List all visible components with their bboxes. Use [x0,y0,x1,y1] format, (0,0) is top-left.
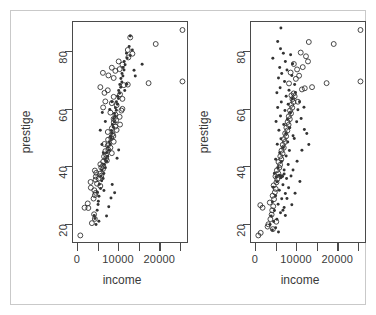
x-axis-title-right: income [189,273,367,287]
data-point [284,214,287,217]
data-point [126,57,129,60]
data-points-right [251,22,365,242]
data-point [133,69,136,72]
y-tick-label: 80 [57,51,69,64]
data-point [102,189,105,192]
data-point [286,141,289,144]
data-point [102,177,105,180]
data-point [281,183,284,186]
data-point [288,149,291,152]
data-point [282,52,285,55]
figure-container: prestige 20 40 60 80 0 10000 20000 i [10,10,366,305]
data-point [101,111,104,114]
data-point [106,73,111,78]
data-point [275,218,278,221]
data-point [98,183,101,186]
data-point [286,69,289,72]
data-point [93,214,96,217]
data-point [109,135,112,138]
data-point [277,129,280,132]
data-point [289,53,292,56]
data-point [102,172,105,175]
x-tick-label: 10000 [280,253,312,265]
data-point [124,63,127,66]
data-point [288,126,291,129]
data-point [277,203,280,206]
data-point [108,110,113,115]
data-point [117,149,120,152]
data-point [104,166,107,169]
data-point [114,115,117,118]
data-point [180,28,185,33]
data-point [280,160,283,163]
data-point [282,123,285,126]
data-point [116,59,121,64]
y-tick-label: 40 [57,166,69,179]
data-point [295,67,300,72]
data-point [275,91,278,94]
data-point [291,62,294,65]
x-tick-label: 0 [74,253,80,265]
data-point [116,103,119,106]
data-point [273,172,276,175]
data-point [298,100,301,103]
data-point [288,89,291,92]
data-point [277,77,280,80]
data-point [294,91,297,94]
x-tick-label: 10000 [102,253,134,265]
data-point [284,60,287,63]
data-point [304,54,309,59]
data-point [280,101,283,104]
data-point [95,223,98,226]
data-point [283,169,286,172]
data-point [272,220,275,223]
data-point [112,126,115,129]
data-point [134,75,137,78]
data-point [305,132,308,135]
data-point [105,130,110,135]
data-point [292,169,295,172]
x-axis-title-text: income [237,273,320,287]
data-point [310,85,315,90]
x-tick-label: 20000 [322,253,354,265]
data-point [120,81,123,84]
data-point [284,192,287,195]
data-point [283,206,286,209]
data-point [358,28,363,33]
data-point [277,166,280,169]
x-axis-left: 0 10000 20000 [72,243,188,252]
x-tick [180,243,181,251]
y-tick-label: 80 [235,51,247,64]
data-point [103,99,108,104]
y-axis-left: 20 40 60 80 [64,21,72,243]
data-point [275,175,278,178]
data-point [272,186,275,189]
data-point [180,79,185,84]
data-point [281,209,284,212]
data-point [277,231,280,234]
data-point [106,145,109,148]
x-tick [159,243,160,251]
data-point [112,117,115,120]
data-point [279,211,282,214]
data-point [122,66,125,69]
data-point [281,175,284,178]
data-point [110,197,113,200]
data-point [125,52,128,55]
data-point [141,63,144,66]
data-point [271,57,274,60]
data-point [303,128,306,131]
plot-area-left [72,21,188,243]
series-filled-dot [93,35,144,227]
y-tick-label: 20 [235,224,247,237]
data-point [99,187,102,190]
data-point [111,76,116,81]
data-point [287,186,290,189]
data-point [101,169,104,172]
data-point [105,160,108,163]
data-point [297,73,302,78]
data-point [294,192,297,195]
data-point [274,194,277,197]
data-point [103,163,106,166]
data-point [279,27,282,30]
